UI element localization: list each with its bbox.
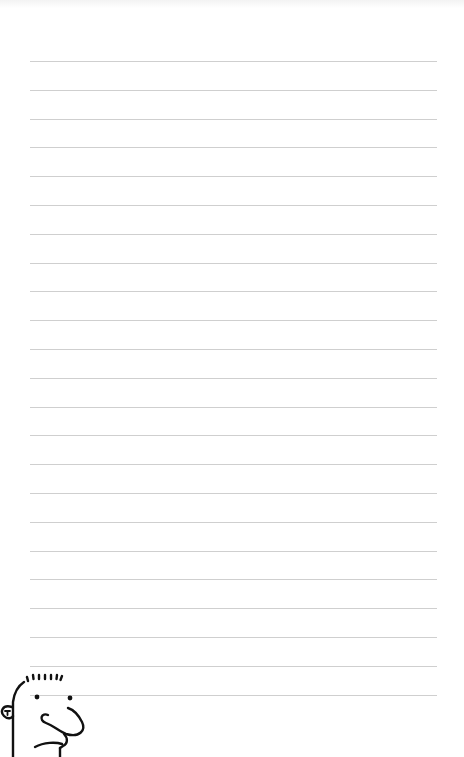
ruled-line — [30, 147, 437, 148]
notebook-page — [0, 0, 464, 757]
ruled-line — [30, 263, 437, 264]
ruled-line — [30, 119, 437, 120]
ruled-line — [30, 435, 437, 436]
ruled-line — [30, 464, 437, 465]
ruled-line — [30, 637, 437, 638]
ruled-line — [30, 378, 437, 379]
ruled-line — [30, 291, 437, 292]
ruled-line — [30, 234, 437, 235]
ruled-line — [30, 407, 437, 408]
ruled-line — [30, 493, 437, 494]
ruled-line — [30, 551, 437, 552]
ruled-line — [30, 579, 437, 580]
ruled-line — [30, 205, 437, 206]
ruled-line — [30, 176, 437, 177]
ruled-line — [30, 90, 437, 91]
ruled-line — [30, 666, 437, 667]
ruled-line — [30, 608, 437, 609]
ruled-line — [30, 320, 437, 321]
ruled-line — [30, 349, 437, 350]
ruled-lines — [0, 0, 464, 757]
cartoon-face-doodle-icon — [0, 670, 100, 757]
ruled-line — [30, 61, 437, 62]
ruled-line — [30, 522, 437, 523]
